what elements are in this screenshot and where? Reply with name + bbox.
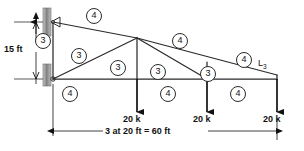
member-label-bottom-chord-mid: 4	[160, 86, 176, 102]
support-plate-top	[43, 8, 51, 36]
member-diagonal-left	[53, 38, 137, 79]
node-label-subscript: 3	[263, 63, 267, 70]
member-label-bottom-chord-left: 4	[62, 86, 78, 102]
horizontal-dimension-label: 3 at 20 ft = 60 ft	[105, 126, 170, 136]
load-label-1: 20 k	[123, 114, 141, 124]
vertical-dimension-label: 15 ft	[4, 44, 23, 54]
member-label-diagonal-mid: 3	[150, 64, 166, 80]
member-label-top-chord-far-right: 4	[236, 52, 252, 68]
load-label-2: 20 k	[193, 114, 211, 124]
load-arrows	[137, 79, 277, 112]
member-label-diagonal-lower-left: 3	[71, 48, 87, 64]
member-label-top-chord-left: 4	[86, 8, 102, 24]
member-label-bottom-chord-right: 4	[230, 86, 246, 102]
truss-diagram: 4 3 3 3 4 3 3 4 4 4 4 15 ft 20 k 20 k 20…	[0, 0, 304, 151]
load-label-3: 20 k	[263, 114, 281, 124]
member-label-top-chord-right: 4	[172, 33, 188, 49]
support-plate-bottom	[43, 64, 51, 86]
node-label-l3: L3	[258, 58, 267, 70]
member-label-left-vertical: 3	[35, 33, 51, 49]
member-label-vertical-right: 3	[200, 66, 216, 82]
member-label-vertical-mid: 3	[110, 60, 126, 76]
member-top-chord-left	[53, 22, 137, 38]
